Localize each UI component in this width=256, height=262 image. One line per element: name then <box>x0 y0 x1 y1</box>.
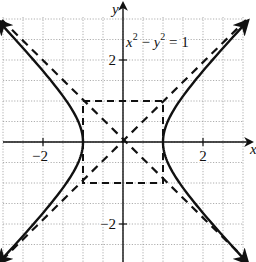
x-axis-label: x <box>249 141 256 157</box>
y-tick-label: −2 <box>100 216 116 232</box>
x-tick-label: −2 <box>32 148 48 164</box>
y-axis-label: y <box>110 1 119 17</box>
plot-canvas: yx−222−2x2 − y2 = 1 <box>0 0 256 262</box>
x-tick-label: 2 <box>199 148 207 164</box>
y-tick-label: 2 <box>109 52 117 68</box>
equation-label: x2 − y2 = 1 <box>125 31 189 50</box>
hyperbola-diagram: yx−222−2x2 − y2 = 1 <box>0 0 256 262</box>
